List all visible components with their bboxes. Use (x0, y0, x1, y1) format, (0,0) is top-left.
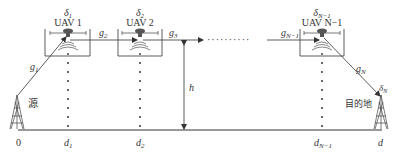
drone-icon (122, 29, 158, 38)
uav-relay-diagram: δ1 UAV 1 δ2 UAV 2 (0, 0, 399, 153)
uav-1-label: UAV 1 (54, 17, 82, 28)
link-g1 (18, 37, 66, 95)
link-g1-label: g1 (30, 61, 39, 74)
drone-icon (50, 29, 86, 38)
dotted-drop-uav1 (67, 62, 69, 127)
destination-label: 目的地 (345, 98, 372, 109)
link-gn-minus-1-label: gN−1 (281, 27, 299, 40)
signal-waves-icon (130, 42, 150, 50)
position-0: 0 (16, 137, 21, 148)
source-tower-icon (10, 95, 24, 129)
source-label: 源 (28, 97, 38, 109)
uav-2: δ2 UAV 2 (118, 7, 162, 56)
position-d1: d1 (64, 137, 73, 150)
link-gn-label: gN (356, 63, 366, 76)
dotted-drop-uavn1 (321, 62, 323, 127)
ellipsis: ·········· (207, 34, 250, 45)
dotted-drop-uav2 (139, 62, 141, 127)
link-gn (324, 38, 380, 96)
link-g2-label: g2 (99, 27, 108, 40)
uav-1: δ1 UAV 1 (45, 7, 90, 56)
position-dn-minus-1: dN−1 (314, 137, 332, 150)
destination-delta: δN (379, 83, 388, 94)
position-d: d (378, 137, 384, 148)
drone-icon (304, 29, 340, 38)
position-d2: d2 (136, 137, 145, 150)
uav-2-label: UAV 2 (126, 17, 154, 28)
destination-tower-icon (374, 95, 388, 129)
height-label: h (189, 82, 194, 93)
uav-n-minus-1: δN−1 UAV N−1 (300, 7, 344, 56)
link-g3-label: g3 (169, 27, 178, 40)
uav-n-minus-1-label: UAV N−1 (302, 17, 343, 28)
